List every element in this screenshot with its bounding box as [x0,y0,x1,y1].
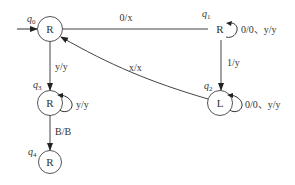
state-q4: R q4 [28,146,62,174]
state-q1-label: R [216,23,224,35]
state-q2-name: q2 [204,80,213,93]
self-loop-q2-label: 0/0、y/y [245,99,281,110]
self-loop-q3-label: y/y [76,99,89,110]
self-loop-q1 [226,23,237,37]
edge-q1-q2-label: 1/y [227,57,240,68]
state-q3: R q3 [33,79,63,116]
state-q4-name: q4 [28,146,37,159]
edge-q0-q3-label: y/y [55,61,68,72]
state-q3-name: q3 [33,79,42,92]
state-diagram: R q0 0/x R q1 0/0、y/y 1/y L q2 0/0、y/y x… [0,0,295,185]
edge-q2-q0-label: x/x [129,62,142,73]
state-q2-label: L [217,97,224,109]
state-q4-label: R [46,156,54,168]
state-q0: R q0 [27,13,63,42]
state-q0-label: R [46,23,54,35]
state-q1: R q1 [202,8,224,35]
edge-q3-q4-label: B/B [55,126,71,137]
self-loop-q1-arrowhead [226,21,232,26]
state-q0-name: q0 [27,13,36,26]
state-q2: L q2 [204,80,233,116]
state-q3-label: R [46,97,54,109]
self-loop-q1-label: 0/0、y/y [241,24,277,35]
state-q1-name: q1 [202,8,211,21]
edge-q0-q1-label: 0/x [120,12,133,23]
